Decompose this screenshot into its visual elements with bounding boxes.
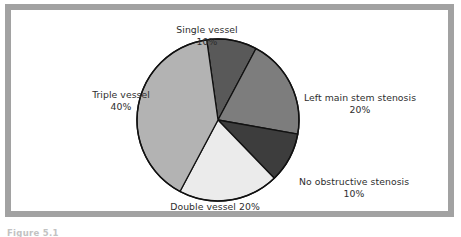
pie-label-triple-vessel-name: Triple vessel bbox=[92, 89, 150, 100]
pie-label-no-obstructive-stenosis-name: No obstructive stenosis bbox=[299, 176, 409, 187]
pie-label-double-vessel: Double vessel 20% bbox=[170, 201, 260, 213]
pie-label-single-vessel-name: Single vessel bbox=[176, 24, 237, 35]
pie-label-single-vessel: Single vessel 10% bbox=[176, 24, 237, 47]
pie-slices bbox=[137, 39, 299, 201]
pie-label-triple-vessel-percent: 40% bbox=[92, 101, 150, 113]
pie-label-double-vessel-name: Double vessel 20% bbox=[170, 201, 260, 212]
pie-label-single-vessel-percent: 10% bbox=[176, 36, 237, 48]
pie-label-left-main-stem-stenosis-name: Left main stem stenosis bbox=[304, 92, 416, 103]
pie-chart: Single vessel 10% Left main stem stenosi… bbox=[11, 10, 448, 211]
figure-caption: Figure 5.1 bbox=[7, 228, 59, 237]
pie-label-left-main-stem-stenosis: Left main stem stenosis 20% bbox=[304, 92, 416, 115]
pie-label-left-main-stem-stenosis-percent: 20% bbox=[304, 104, 416, 116]
pie-label-triple-vessel: Triple vessel 40% bbox=[92, 89, 150, 112]
pie-label-no-obstructive-stenosis: No obstructive stenosis 10% bbox=[299, 176, 409, 199]
pie-label-no-obstructive-stenosis-percent: 10% bbox=[299, 188, 409, 200]
